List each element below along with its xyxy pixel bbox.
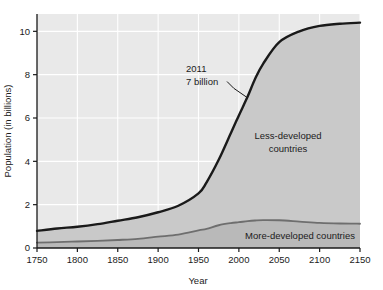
x-tick-label: 2150 bbox=[349, 254, 370, 265]
milestone-value-label: 7 billion bbox=[186, 76, 218, 87]
x-tick-label: 2100 bbox=[309, 254, 330, 265]
x-tick-label: 1800 bbox=[67, 254, 88, 265]
x-tick-label: 1850 bbox=[107, 254, 128, 265]
y-tick-label: 0 bbox=[25, 242, 30, 253]
x-axis-title: Year bbox=[188, 275, 207, 286]
x-tick-label: 1950 bbox=[188, 254, 209, 265]
milestone-year-label: 2011 bbox=[186, 63, 206, 74]
y-tick-label: 4 bbox=[25, 156, 30, 167]
y-axis-title: Population (in billions) bbox=[2, 85, 13, 178]
y-tick-label: 2 bbox=[25, 199, 30, 210]
chart-canvas: 0246810 17501800185019001950200020502100… bbox=[0, 0, 383, 290]
more-developed-label: More-developed countries bbox=[245, 230, 355, 241]
y-tick-label: 8 bbox=[25, 69, 30, 80]
x-tick-label: 1900 bbox=[148, 254, 169, 265]
less-developed-label-line1: Less-developed bbox=[254, 130, 321, 141]
y-tick-label: 6 bbox=[25, 112, 30, 123]
x-tick-label: 2050 bbox=[269, 254, 290, 265]
x-tick-label: 2000 bbox=[228, 254, 249, 265]
population-growth-chart: 0246810 17501800185019001950200020502100… bbox=[0, 0, 383, 290]
y-tick-label: 10 bbox=[19, 26, 30, 37]
x-tick-label: 1750 bbox=[26, 254, 47, 265]
less-developed-label-line2: countries bbox=[269, 143, 308, 154]
